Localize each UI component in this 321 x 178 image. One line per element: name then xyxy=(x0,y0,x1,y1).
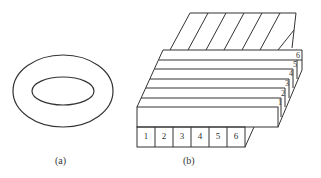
front-number-6: 6 xyxy=(227,131,245,141)
front-number-1: 1 xyxy=(137,131,155,141)
side-number-4: 4 xyxy=(289,69,293,78)
side-number-6: 6 xyxy=(296,51,300,60)
front-number-3: 3 xyxy=(173,131,191,141)
front-number-2: 2 xyxy=(155,131,173,141)
top-sheet xyxy=(170,13,296,50)
front-number-5: 5 xyxy=(209,131,227,141)
panel-a-label: (a) xyxy=(55,155,66,166)
front-number-4: 4 xyxy=(191,131,209,141)
stacked-strips xyxy=(137,50,302,127)
inner-ellipse xyxy=(32,77,94,105)
panel-b-label: (b) xyxy=(183,155,195,166)
side-number-2: 2 xyxy=(281,89,285,98)
side-number-5: 5 xyxy=(293,60,297,69)
side-number-1: 1 xyxy=(278,98,282,107)
side-number-3: 3 xyxy=(285,79,289,88)
outer-ellipse xyxy=(13,55,113,127)
diagram-canvas xyxy=(0,0,321,178)
